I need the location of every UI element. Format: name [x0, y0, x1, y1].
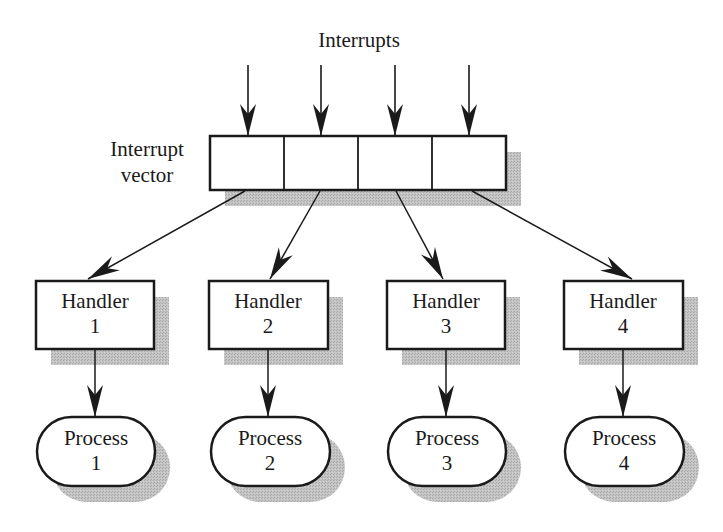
handler-3-number: 3: [441, 314, 452, 338]
vector-to-handler-1-arrow: [88, 191, 245, 279]
handler-4-number: 4: [618, 314, 629, 338]
process-4-number: 4: [619, 451, 630, 475]
process-3-number: 3: [442, 451, 453, 475]
handler-1: Handler 1: [36, 281, 169, 365]
handler-to-process-arrows: [95, 349, 623, 417]
process-2-number: 2: [265, 451, 276, 475]
process-2: Process 2: [211, 417, 345, 502]
arrowhead-icon: [421, 247, 450, 283]
handler-4: Handler 4: [564, 281, 698, 365]
handler-2: Handler 2: [209, 281, 343, 365]
interrupt-diagram: Interrupts Interrupt vector: [0, 0, 723, 532]
process-3-label: Process: [415, 426, 479, 450]
handler-4-label: Handler: [589, 289, 657, 313]
process-arrowheads: [87, 385, 631, 417]
process-1: Process 1: [37, 417, 170, 502]
handler-2-label: Handler: [234, 289, 302, 313]
process-3: Process 3: [388, 417, 521, 502]
handler-3-label: Handler: [412, 289, 480, 313]
interrupt-vector-label-line2: vector: [121, 163, 173, 187]
handler-1-number: 1: [90, 314, 101, 338]
handler-arrowheads: [84, 247, 636, 286]
process-1-label: Process: [64, 426, 128, 450]
incoming-interrupt-arrows: [248, 65, 469, 136]
process-1-number: 1: [91, 451, 102, 475]
interrupt-vector: [210, 136, 521, 206]
interrupt-vector-label-line1: Interrupt: [110, 137, 184, 161]
handler-2-number: 2: [263, 314, 274, 338]
process-4: Process 4: [565, 417, 699, 502]
interrupt-arrowheads: [240, 104, 477, 136]
handler-1-label: Handler: [61, 289, 129, 313]
vector-to-handler-4-arrow: [472, 191, 632, 279]
arrowhead-icon: [263, 247, 293, 283]
process-2-label: Process: [238, 426, 302, 450]
interrupts-title: Interrupts: [318, 28, 400, 52]
handler-3: Handler 3: [387, 281, 520, 365]
process-4-label: Process: [592, 426, 656, 450]
